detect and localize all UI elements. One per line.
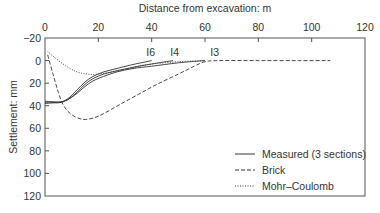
curve-label-i4: I4 [170, 46, 179, 58]
y-tick-label: −20 [23, 32, 41, 44]
series-brick [48, 55, 331, 120]
legend-measured-label: Measured (3 sections) [262, 148, 366, 160]
y-tick-label: 80 [29, 145, 41, 157]
y-tick-label: 100 [23, 167, 41, 179]
series-mohr-coulomb [48, 52, 205, 75]
y-tick-label: 20 [29, 77, 41, 89]
x-axis-ticks: 020406080100120 [42, 21, 374, 42]
x-tick-label: 60 [199, 21, 211, 33]
x-tick-label: 40 [146, 21, 158, 33]
legend: Measured (3 sections) Brick Mohr–Coulomb [235, 148, 366, 192]
y-axis-title: Settlement: mm [7, 80, 19, 154]
x-axis-title: Distance from excavation: m [139, 2, 272, 14]
curve-label-i3: I3 [210, 46, 219, 58]
settlement-chart: Distance from excavation: m Settlement: … [0, 0, 380, 213]
legend-brick-label: Brick [262, 164, 286, 176]
x-tick-label: 80 [252, 21, 264, 33]
y-tick-label: 60 [29, 122, 41, 134]
series-measured-i4 [45, 61, 173, 103]
curve-labels: I6I4I3 [146, 46, 219, 58]
y-tick-label: 0 [35, 55, 41, 67]
legend-mohr-coulomb-label: Mohr–Coulomb [262, 180, 334, 192]
y-tick-label: 40 [29, 100, 41, 112]
data-series [45, 52, 330, 120]
y-tick-label: 120 [23, 190, 41, 202]
x-tick-label: 100 [303, 21, 321, 33]
curve-label-i6: I6 [146, 46, 155, 58]
x-tick-label: 20 [92, 21, 104, 33]
x-tick-label: 120 [356, 21, 374, 33]
x-tick-label: 0 [42, 21, 48, 33]
